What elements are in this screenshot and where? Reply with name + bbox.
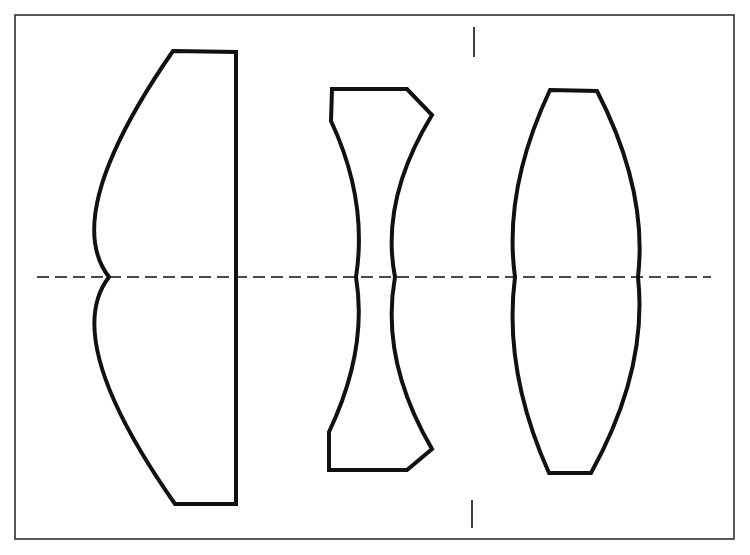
lens-2	[329, 89, 432, 470]
lens-3	[513, 90, 640, 473]
lens-diagram	[0, 0, 750, 555]
diagram-frame	[15, 15, 734, 539]
